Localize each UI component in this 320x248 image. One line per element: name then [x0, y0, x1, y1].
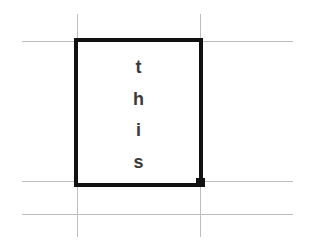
cell-text-line: i: [136, 120, 141, 140]
fill-handle[interactable]: [196, 178, 205, 187]
cell-text-line: h: [133, 89, 144, 109]
selected-cell[interactable]: t h i s: [74, 38, 203, 187]
gridline-row-bottom: [22, 214, 293, 215]
cell-text-line: s: [133, 152, 143, 172]
cell-text-line: t: [136, 57, 142, 77]
